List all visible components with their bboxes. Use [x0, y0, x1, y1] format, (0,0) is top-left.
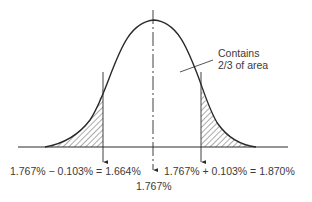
upper-bound-label: 1.767% + 0.103% = 1.870% — [164, 165, 295, 177]
lower-tail-hatch — [45, 88, 103, 147]
mean-label: 1.767% — [136, 180, 172, 192]
upper-tail-hatch — [201, 88, 256, 147]
bell-curve — [45, 20, 256, 147]
annotation-line-1: Contains — [218, 47, 259, 59]
annotation-line-2: 2/3 of area — [218, 59, 268, 71]
lower-bound-label: 1.767% − 0.103% = 1.664% — [10, 165, 141, 177]
